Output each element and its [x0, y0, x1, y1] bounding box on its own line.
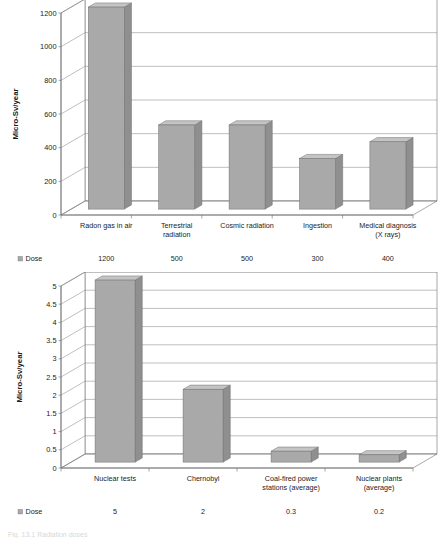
- chart-2-canvas: 00.511.522.533.544.55Micro-Sv/yearNuclea…: [0, 272, 439, 522]
- chart-natural-and-medical-dose: 020040060080010001200Micro-Sv/yearRadon …: [0, 0, 439, 270]
- value-row: 520.30.2: [113, 507, 384, 516]
- y-tick-label: 1000: [40, 42, 56, 51]
- bar-side-face: [135, 276, 142, 462]
- y-tick-label: 4.5: [46, 300, 56, 309]
- bar-top-face: [95, 276, 142, 280]
- legend: Dose: [18, 507, 42, 516]
- value-row: 1200500500300400: [98, 254, 394, 263]
- bar[interactable]: [88, 7, 124, 209]
- bar[interactable]: [159, 125, 195, 209]
- y-tick-label: 0.5: [46, 445, 56, 454]
- x-tick-marks: [61, 215, 413, 219]
- value-label: 400: [382, 254, 394, 263]
- y-tick-label: 2.5: [46, 373, 56, 382]
- y-tick-label: 1: [52, 427, 56, 436]
- bar[interactable]: [299, 159, 335, 210]
- y-tick-label: 200: [44, 177, 56, 186]
- bar-top-face: [370, 138, 413, 142]
- x-category-label: radiation: [163, 230, 191, 239]
- bar-top-face: [359, 451, 406, 455]
- bar[interactable]: [95, 280, 135, 462]
- y-tick-label: 1200: [40, 9, 56, 18]
- bar-side-face: [335, 154, 342, 209]
- x-category-label: Ingestion: [303, 221, 332, 230]
- value-label: 0.2: [374, 507, 384, 516]
- legend-swatch-dose: [18, 256, 23, 261]
- x-category-label: Medical diagnosis: [359, 221, 417, 230]
- value-label: 300: [311, 254, 323, 263]
- y-tick-label: 3.5: [46, 336, 56, 345]
- bar-top-face: [183, 385, 230, 389]
- value-label: 2: [201, 507, 205, 516]
- y-tick-label: 400: [44, 143, 56, 152]
- x-category-label: Chernobyl: [187, 474, 220, 483]
- y-tick-label: 0: [52, 464, 56, 473]
- bar[interactable]: [359, 455, 399, 462]
- y-tick-label: 800: [44, 76, 56, 85]
- x-category-label: Radon gas in air: [80, 221, 133, 230]
- y-tick-label: 1.5: [46, 409, 56, 418]
- bar-top-face: [229, 121, 272, 125]
- figure-radiation-doses: 020040060080010001200Micro-Sv/yearRadon …: [0, 0, 439, 543]
- plot-left-wall: [61, 0, 85, 215]
- y-tick-label: 600: [44, 110, 56, 119]
- y-tick-label: 2: [52, 391, 56, 400]
- x-category-label: (X rays): [375, 230, 400, 239]
- value-label: 5: [113, 507, 117, 516]
- legend: Dose: [18, 254, 42, 263]
- value-label: 500: [171, 254, 183, 263]
- x-tick-marks: [61, 468, 413, 472]
- chart-artificial-dose: 00.511.522.533.544.55Micro-Sv/yearNuclea…: [0, 272, 439, 522]
- bar-side-face: [265, 121, 272, 209]
- bar-side-face: [406, 138, 413, 210]
- bar-top-face: [88, 3, 131, 7]
- y-axis-title: Micro-Sv/year: [15, 351, 24, 402]
- legend-label-dose: Dose: [26, 507, 43, 516]
- y-tick-label: 4: [52, 318, 56, 327]
- value-label: 500: [241, 254, 253, 263]
- x-category-label: stations (average): [262, 483, 320, 492]
- bar[interactable]: [183, 389, 223, 462]
- bar[interactable]: [370, 142, 406, 209]
- y-tick-label: 5: [52, 282, 56, 291]
- bar-side-face: [195, 121, 202, 209]
- x-category-label: Coal-fired power: [265, 474, 318, 483]
- x-category-label: Nuclear tests: [94, 474, 136, 483]
- chart-1-canvas: 020040060080010001200Micro-Sv/yearRadon …: [0, 0, 439, 270]
- x-category-label: Cosmic radiation: [220, 221, 274, 230]
- bar-side-face: [124, 3, 131, 209]
- figure-caption: Fig. 13.1 Radiation doses: [8, 531, 438, 538]
- x-category-labels: Radon gas in airTerrestrialradiationCosm…: [80, 221, 417, 239]
- x-category-label: Terrestrial: [161, 221, 193, 230]
- y-tick-label: 0: [52, 211, 56, 220]
- y-axis-title: Micro-Sv/year: [11, 88, 20, 139]
- bar-top-face: [159, 121, 202, 125]
- bar[interactable]: [229, 125, 265, 209]
- bar[interactable]: [271, 451, 311, 462]
- bar-top-face: [299, 154, 342, 158]
- x-category-labels: Nuclear testsChernobylCoal-fired powerst…: [94, 474, 402, 492]
- x-category-label: (average): [364, 483, 395, 492]
- bar-top-face: [271, 447, 318, 451]
- x-category-label: Nuclear plants: [356, 474, 402, 483]
- value-label: 1200: [98, 254, 114, 263]
- legend-label-dose: Dose: [26, 254, 43, 263]
- legend-swatch-dose: [18, 509, 23, 514]
- value-label: 0.3: [286, 507, 296, 516]
- bar-side-face: [223, 385, 230, 462]
- y-tick-label: 3: [52, 354, 56, 363]
